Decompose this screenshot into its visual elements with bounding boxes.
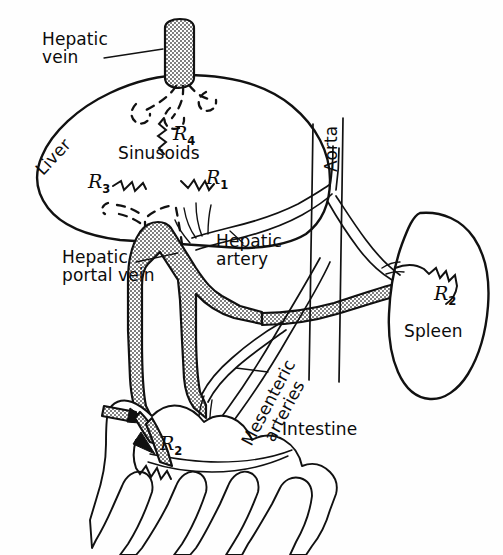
label-spleen: Spleen: [404, 322, 463, 340]
resistor-r4-subscript: 4: [187, 134, 195, 148]
leader-hepatic-vein: [104, 49, 163, 58]
label-hepatic-artery: Hepatic artery: [216, 232, 282, 269]
label-resistor-r4: R4: [173, 122, 195, 148]
label-resistor-r3: R3: [88, 170, 110, 196]
label-resistor-r2-spleen: R2: [434, 282, 456, 308]
resistor-r2-spleen-name: R: [434, 282, 448, 304]
resistor-r2-intestine-name: R: [160, 432, 174, 454]
resistor-r2-spleen-subscript: 2: [448, 294, 456, 308]
resistor-r1-name: R: [206, 166, 220, 188]
anatomical-diagram: Hepatic vein Liver Sinusoids R4 R3 R1 He…: [0, 0, 503, 555]
label-resistor-r1: R1: [206, 166, 228, 192]
label-intestine: Intestine: [282, 420, 357, 438]
resistor-r4-name: R: [173, 122, 187, 144]
hepatic-vein-vessel: [165, 19, 194, 88]
resistor-r3-subscript: 3: [102, 182, 110, 196]
splenic-artery-vessel: [328, 196, 404, 280]
label-hepatic-portal-vein: Hepatic portal vein: [62, 248, 155, 285]
label-resistor-r2-intestine: R2: [160, 432, 182, 458]
resistor-r2-intestine-subscript: 2: [174, 444, 182, 458]
label-hepatic-vein: Hepatic vein: [42, 30, 108, 67]
resistor-r1-subscript: 1: [220, 178, 228, 192]
label-aorta: Aorta: [322, 126, 340, 172]
resistor-r3-name: R: [88, 170, 102, 192]
